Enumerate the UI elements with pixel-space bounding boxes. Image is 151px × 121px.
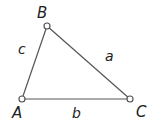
- vertex-a-point: [19, 96, 25, 102]
- vertex-c-point: [127, 96, 133, 102]
- vertex-b-point: [44, 23, 50, 29]
- vertex-c-label: C: [136, 103, 147, 121]
- side-a-label: a: [105, 48, 114, 64]
- triangle-diagram: A B C a b c: [0, 0, 151, 121]
- side-b-label: b: [72, 105, 81, 121]
- vertex-a-label: A: [11, 104, 22, 121]
- vertex-points: [19, 23, 133, 102]
- triangle-edges: [22, 26, 130, 99]
- side-c-line: [22, 26, 47, 99]
- side-a-line: [47, 26, 130, 99]
- vertex-b-label: B: [37, 4, 47, 22]
- side-c-label: c: [18, 41, 26, 57]
